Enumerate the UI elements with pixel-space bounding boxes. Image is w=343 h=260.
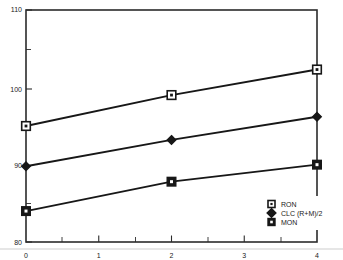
data-point-ron	[313, 65, 322, 74]
y-tick-label-100: 100	[10, 86, 22, 93]
y-tick-label-90: 90	[14, 162, 22, 169]
data-point-ron	[167, 91, 176, 100]
x-axis-labels: 0 1 2 3 4	[24, 252, 319, 259]
x-tick-label-1: 1	[97, 252, 101, 259]
legend: RON CLC (R+M)/2 MON	[262, 196, 336, 230]
x-tick-label-4: 4	[315, 252, 319, 259]
data-point-clc-r-m-2	[313, 112, 322, 121]
legend-label-clc: CLC (R+M)/2	[281, 210, 323, 218]
x-axis-ticks	[62, 236, 281, 243]
data-point-ron	[22, 122, 31, 131]
legend-entry-mon: MON	[268, 219, 297, 226]
x-tick-label-0: 0	[24, 252, 28, 259]
data-point-mon	[167, 177, 176, 186]
line-chart: 110 100 90 80 0 1 2 3 4	[0, 0, 343, 260]
legend-label-mon: MON	[281, 219, 297, 226]
y-axis-labels: 110 100 90 80	[10, 6, 22, 246]
y-tick-label-110: 110	[11, 6, 22, 13]
data-point-mon	[313, 160, 322, 169]
chart-container: 110 100 90 80 0 1 2 3 4	[0, 0, 343, 260]
legend-entry-ron: RON	[268, 201, 297, 209]
data-point-clc-r-m-2	[22, 162, 31, 171]
y-tick-label-80: 80	[14, 239, 22, 246]
legend-label-ron: RON	[281, 201, 297, 208]
x-tick-label-3: 3	[242, 252, 246, 259]
series-markers	[22, 65, 322, 215]
x-tick-label-2: 2	[170, 252, 174, 259]
data-point-clc-r-m-2	[167, 136, 176, 145]
data-point-mon	[22, 207, 31, 216]
